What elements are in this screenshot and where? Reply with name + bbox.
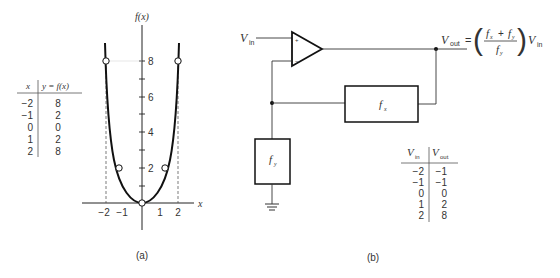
table-a-cell: 8: [55, 98, 61, 109]
block-fy-sub: y: [273, 161, 277, 167]
data-point: [103, 58, 109, 64]
y-tick-label: 6: [148, 92, 154, 103]
transfer-equation: V out = ( f x + f y f y ) V in: [441, 23, 543, 56]
ground-icon: [265, 204, 279, 210]
x-tick-label: −1: [116, 207, 128, 218]
block-fy: [255, 139, 290, 184]
opamp-minus: −: [295, 58, 299, 64]
svg-text:out: out: [450, 40, 460, 47]
table-a-cell: −2: [22, 98, 34, 109]
table-a-cell: −1: [22, 110, 34, 121]
svg-text:1: 1: [418, 199, 424, 210]
svg-text:=: =: [465, 34, 471, 46]
y-tick-label: 8: [148, 56, 154, 67]
table-b-header-vin: V: [407, 146, 415, 158]
caption-b: (b): [367, 252, 379, 263]
panel-b-circuit: V in + − f x f y: [240, 31, 467, 210]
x-axis-label: x: [197, 198, 203, 209]
svg-text:x: x: [489, 34, 493, 40]
svg-text:−1: −1: [436, 177, 448, 188]
data-point: [139, 200, 145, 206]
svg-text:out: out: [440, 154, 449, 160]
table-a-cell: 1: [27, 134, 33, 145]
data-point: [175, 58, 181, 64]
svg-text:8: 8: [441, 210, 447, 221]
panel-a-table: x y = f(x) −2 8 −1 2 0 0 1 2 2 8: [17, 80, 82, 157]
table-a-header-y: y = f(x): [41, 81, 69, 91]
x-tick-label: 2: [175, 207, 181, 218]
table-b-header-vout: V: [432, 146, 440, 158]
panel-a-plot: f(x) x 8 6 4 2 −2 −1 1 2: [82, 11, 203, 261]
svg-text:+: +: [498, 28, 504, 39]
svg-text:−1: −1: [436, 166, 448, 177]
block-fx-sub: x: [383, 106, 387, 112]
svg-text:): ): [517, 23, 527, 56]
data-point: [116, 165, 122, 171]
svg-text:0: 0: [418, 188, 424, 199]
figure-canvas: x y = f(x) −2 8 −1 2 0 0 1 2 2 8 f(x) x: [0, 0, 560, 278]
svg-text:2: 2: [441, 199, 447, 210]
vin-sub: in: [249, 39, 255, 46]
table-a-cell: 2: [55, 134, 61, 145]
vin-label: V: [240, 31, 249, 45]
table-a-cell: 0: [27, 122, 33, 133]
table-a-cell: 2: [27, 146, 33, 157]
svg-text:V: V: [528, 33, 537, 47]
svg-text:(: (: [473, 23, 483, 56]
y-tick-label: 2: [148, 163, 154, 174]
table-a-header-x: x: [25, 81, 30, 91]
svg-text:−2: −2: [413, 166, 425, 177]
y-tick-label: 4: [148, 127, 154, 138]
svg-text:in: in: [415, 154, 420, 160]
svg-text:y: y: [499, 50, 503, 56]
svg-text:y: y: [511, 34, 515, 40]
y-axis-label: f(x): [135, 11, 150, 23]
svg-text:0: 0: [441, 188, 447, 199]
caption-a: (a): [136, 250, 148, 261]
svg-text:2: 2: [418, 210, 424, 221]
x-tick-label: −2: [98, 207, 110, 218]
x-tick-label: 1: [157, 207, 163, 218]
data-point: [162, 165, 168, 171]
opamp-plus: +: [295, 37, 299, 43]
svg-text:in: in: [537, 41, 543, 48]
table-a-cell: 8: [55, 146, 61, 157]
table-a-cell: 2: [55, 110, 61, 121]
panel-b-table: V in V out −2 −1 −1 −1 0 0 1 2 2 8: [401, 146, 458, 222]
svg-text:−1: −1: [413, 177, 425, 188]
svg-text:V: V: [441, 33, 450, 47]
table-a-cell: 0: [55, 122, 61, 133]
